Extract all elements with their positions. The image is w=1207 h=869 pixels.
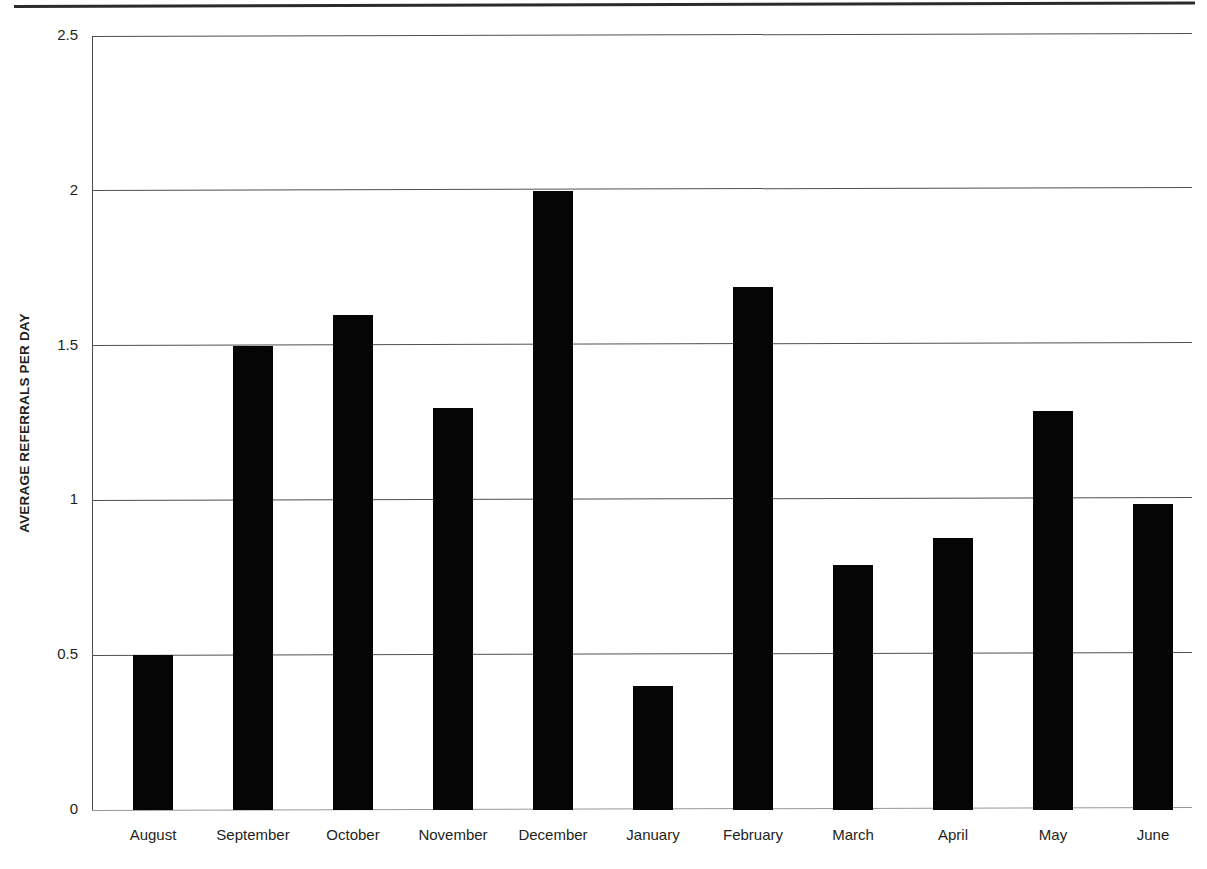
bar-may <box>1033 411 1073 810</box>
x-tick-label-december: December <box>518 826 587 843</box>
bar-june <box>1133 504 1173 811</box>
bar-february <box>733 287 773 810</box>
y-tick-label: 2.5 <box>18 26 78 43</box>
y-tick-label: 1 <box>18 490 78 507</box>
x-tick-label-may: May <box>1039 826 1067 843</box>
x-tick-label-january: January <box>626 826 679 843</box>
x-tick-label-march: March <box>832 826 874 843</box>
gridline-2.5 <box>92 32 1192 36</box>
bar-march <box>833 565 873 810</box>
y-tick-label: 0 <box>18 800 78 817</box>
y-tick-label: 1.5 <box>18 336 78 353</box>
y-axis-tick-labels: 00.511.522.5 <box>14 36 78 810</box>
x-tick-label-october: October <box>326 826 379 843</box>
bar-chart-figure: AVERAGE REFERRALS PER DAY 00.511.522.5 A… <box>0 0 1207 869</box>
bar-january <box>633 686 673 810</box>
gridline-2 <box>92 187 1192 191</box>
y-tick-label: 0.5 <box>18 645 78 662</box>
x-tick-label-june: June <box>1137 826 1170 843</box>
bar-september <box>233 346 273 810</box>
x-tick-label-november: November <box>418 826 487 843</box>
plot-area <box>92 36 1192 810</box>
y-tick-label: 2 <box>18 181 78 198</box>
bar-august <box>133 655 173 810</box>
bar-april <box>933 538 973 810</box>
bar-october <box>333 315 373 810</box>
bar-december <box>533 191 573 810</box>
x-tick-label-august: August <box>130 826 177 843</box>
x-tick-label-february: February <box>723 826 783 843</box>
x-tick-label-september: September <box>216 826 289 843</box>
bar-november <box>433 408 473 810</box>
x-tick-label-april: April <box>938 826 968 843</box>
x-axis-tick-labels: AugustSeptemberOctoberNovemberDecemberJa… <box>92 826 1192 856</box>
